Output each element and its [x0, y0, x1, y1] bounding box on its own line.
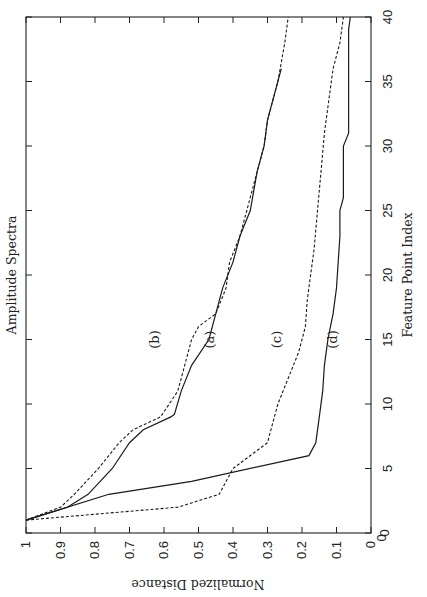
x-tick-label: 5	[380, 465, 395, 472]
x-axis-ticks: 05101520253035400	[26, 10, 395, 542]
curve-labels: (b)(a)(c)(d)	[147, 330, 340, 348]
y-tick-label: 1	[18, 541, 33, 548]
x-tick-label: 20	[380, 268, 395, 282]
x-tick-label: 35	[380, 74, 395, 88]
x-tick-label: 15	[380, 332, 395, 346]
x-tick-label: 25	[380, 203, 395, 217]
chart-title: Amplitude Spectra	[4, 215, 19, 335]
y-tick-label: 0.8	[87, 541, 102, 559]
x-tick-label: 40	[380, 10, 395, 24]
plot-frame	[26, 17, 371, 533]
y-tick-label: 0.2	[294, 541, 309, 559]
y-tick-label: 0.6	[156, 541, 171, 559]
series-c	[26, 17, 343, 520]
x-tick-label: 10	[380, 397, 395, 411]
curve-label-d: (d)	[325, 330, 340, 348]
x-tick-label: 30	[380, 139, 395, 153]
series-d	[26, 17, 350, 520]
y-axis-ticks: 00.10.20.30.40.50.60.70.80.91	[18, 17, 378, 559]
curve-label-c: (c)	[269, 331, 284, 348]
curve-label-b: (b)	[147, 330, 162, 348]
y-tick-label: 0.5	[191, 541, 206, 559]
curve-label-a: (a)	[202, 331, 217, 349]
y-tick-label: 0.1	[329, 541, 344, 559]
y-tick-label: 0.7	[122, 541, 137, 559]
data-series	[26, 17, 350, 520]
x-axis-label: Feature Point Index	[400, 212, 415, 337]
y-axis-label: Normalized Distance	[131, 577, 264, 592]
y-tick-label: 0.9	[53, 541, 68, 559]
origin-label: 0	[374, 534, 389, 541]
y-tick-label: 0.4	[225, 541, 240, 559]
amplitude-spectra-chart: 00.10.20.30.40.50.60.70.80.91 0510152025…	[0, 0, 427, 597]
y-tick-label: 0.3	[260, 541, 275, 559]
series-a	[26, 69, 281, 520]
series-b	[26, 17, 288, 520]
